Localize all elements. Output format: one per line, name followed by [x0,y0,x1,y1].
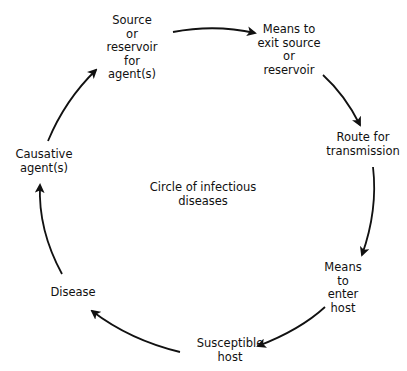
node-line: reservoir [106,41,157,55]
arrow-route-to-enter [362,167,374,255]
node-means-to-enter-host: Means to enter host [324,261,361,315]
node-line: Source [106,14,157,28]
node-line: Causative [16,148,73,162]
node-line: Route for [326,131,399,145]
node-susceptible-host: Susceptible host [197,337,264,364]
node-line: or [106,28,157,42]
node-line: transmission [326,145,399,159]
arrow-host-to-disease [92,311,180,352]
node-line: exit source [257,37,320,51]
node-line: reservoir [257,64,320,78]
arrow-source-to-exit [173,28,255,33]
node-line: agent(s) [16,162,73,176]
node-line: enter [324,288,361,302]
node-means-to-exit: Means to exit source or reservoir [257,23,320,77]
diagram-title: Circle of infectious diseases [150,181,257,208]
node-line: Means [324,261,361,275]
node-line: or [257,50,320,64]
node-causative-agents: Causative agent(s) [16,148,73,175]
node-line: Means to [257,23,320,37]
node-line: to [324,275,361,289]
node-route-for-transmission: Route for transmission [326,131,399,158]
title-line: diseases [150,195,257,209]
arrow-disease-to-agent [40,185,62,274]
node-source-reservoir: Source or reservoir for agent(s) [106,14,157,82]
arrow-enter-to-host [258,307,325,346]
node-line: host [324,302,361,316]
node-line: Susceptible [197,337,264,351]
title-line: Circle of infectious [150,181,257,195]
node-line: host [197,351,264,365]
node-line: Disease [50,286,95,300]
arrow-agent-to-source [48,70,96,141]
node-line: agent(s) [106,68,157,82]
node-line: for [106,55,157,69]
node-disease: Disease [50,286,95,300]
arrow-exit-to-route [323,75,360,125]
